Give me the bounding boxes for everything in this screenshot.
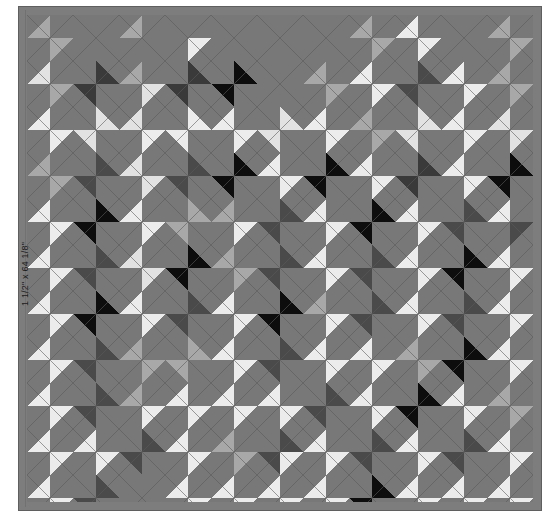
quilt-block-grid — [27, 15, 533, 502]
quilt-body[interactable] — [27, 15, 533, 502]
dimension-leader-line — [25, 10, 26, 507]
quilt-design-canvas: 1 1/2" x 64 1/8" — [0, 0, 551, 521]
